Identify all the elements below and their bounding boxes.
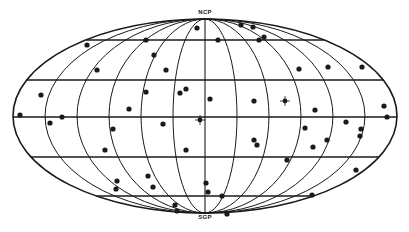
data-point bbox=[172, 202, 177, 207]
data-point bbox=[325, 64, 330, 69]
data-point bbox=[254, 142, 259, 147]
data-point bbox=[174, 208, 179, 213]
data-point bbox=[143, 89, 148, 94]
data-point bbox=[224, 211, 229, 216]
north-pole-label: NCP bbox=[198, 9, 211, 15]
data-point bbox=[238, 22, 243, 27]
data-point bbox=[357, 133, 362, 138]
data-point bbox=[310, 144, 315, 149]
data-point bbox=[324, 137, 329, 142]
data-point bbox=[302, 125, 307, 130]
data-point bbox=[251, 98, 256, 103]
data-point bbox=[102, 147, 107, 152]
data-point bbox=[114, 178, 119, 183]
data-point bbox=[113, 186, 118, 191]
meridian-line bbox=[205, 19, 301, 213]
data-point bbox=[151, 52, 156, 57]
data-point bbox=[207, 96, 212, 101]
data-point bbox=[17, 112, 22, 117]
sky-map bbox=[0, 0, 409, 232]
data-point bbox=[343, 119, 348, 124]
data-point bbox=[284, 157, 289, 162]
data-point bbox=[251, 137, 256, 142]
data-point bbox=[312, 107, 317, 112]
data-point bbox=[381, 103, 386, 108]
data-point bbox=[84, 42, 89, 47]
data-point bbox=[163, 67, 168, 72]
data-point bbox=[183, 147, 188, 152]
data-point bbox=[38, 92, 43, 97]
data-point bbox=[59, 114, 64, 119]
data-point bbox=[359, 64, 364, 69]
data-point bbox=[353, 167, 358, 172]
data-point bbox=[94, 67, 99, 72]
data-point bbox=[126, 106, 131, 111]
meridian-line bbox=[109, 19, 205, 213]
data-point bbox=[143, 37, 148, 42]
data-point bbox=[296, 66, 301, 71]
data-point bbox=[219, 193, 224, 198]
data-point bbox=[384, 114, 389, 119]
south-pole-label: SGP bbox=[198, 214, 211, 220]
data-point bbox=[194, 25, 199, 30]
data-point bbox=[177, 90, 182, 95]
data-point bbox=[47, 120, 52, 125]
data-point bbox=[309, 192, 314, 197]
data-point bbox=[250, 24, 255, 29]
data-point bbox=[358, 126, 363, 131]
data-point bbox=[150, 184, 155, 189]
data-point bbox=[215, 37, 220, 42]
data-point bbox=[256, 37, 261, 42]
data-point bbox=[203, 180, 208, 185]
meridian-line bbox=[205, 19, 237, 213]
data-point bbox=[160, 121, 165, 126]
data-point bbox=[110, 126, 115, 131]
data-point bbox=[205, 189, 210, 194]
data-point bbox=[261, 34, 266, 39]
data-point bbox=[145, 173, 150, 178]
data-point bbox=[183, 86, 188, 91]
